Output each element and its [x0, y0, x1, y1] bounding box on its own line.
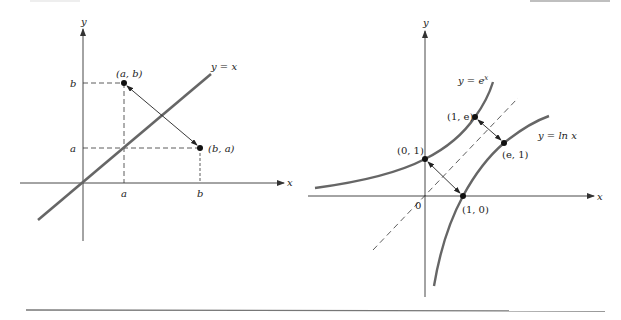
point-b-a: [197, 145, 203, 151]
point-0-1: [422, 156, 428, 162]
point-a-b-label: (a, b): [116, 68, 143, 79]
reflection-arrow-01-10: [428, 162, 460, 193]
point-1-0: [460, 193, 466, 199]
point-1-e-label: (1, e): [447, 111, 474, 122]
bottom-rule: [26, 310, 605, 311]
left-x-axis-label: x: [287, 177, 293, 188]
tick-y-a-label: a: [70, 143, 76, 154]
dashed-line-y-equals-x: [373, 98, 518, 250]
line-y-equals-x-label: y = x: [210, 61, 237, 72]
point-a-b: [121, 80, 127, 86]
right-graph: y x 0 y = ex y = ln x (0, 1) (1, 0) (1, …: [308, 17, 603, 297]
right-y-axis-label: y: [422, 17, 429, 28]
point-b-a-label: (b, a): [208, 143, 235, 154]
point-e-1: [501, 140, 507, 146]
left-y-axis-label: y: [80, 16, 87, 27]
right-x-axis-label: x: [597, 191, 603, 202]
point-0-1-label: (0, 1): [397, 145, 424, 156]
tick-y-b-label: b: [70, 78, 76, 89]
reflection-arrow-1e-e1: [478, 120, 501, 140]
point-e-1-label: (e, 1): [502, 149, 529, 160]
point-1-0-label: (1, 0): [462, 204, 489, 215]
curve-exp-label: y = ex: [457, 74, 488, 86]
curve-exp: [315, 82, 493, 188]
figure-canvas: y x y = x (a, b) (b, a) a b a b y x 0 y …: [0, 0, 621, 320]
curve-ln-label: y = ln x: [537, 130, 577, 141]
tick-x-a-label: a: [121, 188, 127, 199]
left-graph: y x y = x (a, b) (b, a) a b a b: [20, 16, 293, 241]
tick-x-b-label: b: [197, 188, 203, 199]
origin-label: 0: [415, 200, 421, 211]
